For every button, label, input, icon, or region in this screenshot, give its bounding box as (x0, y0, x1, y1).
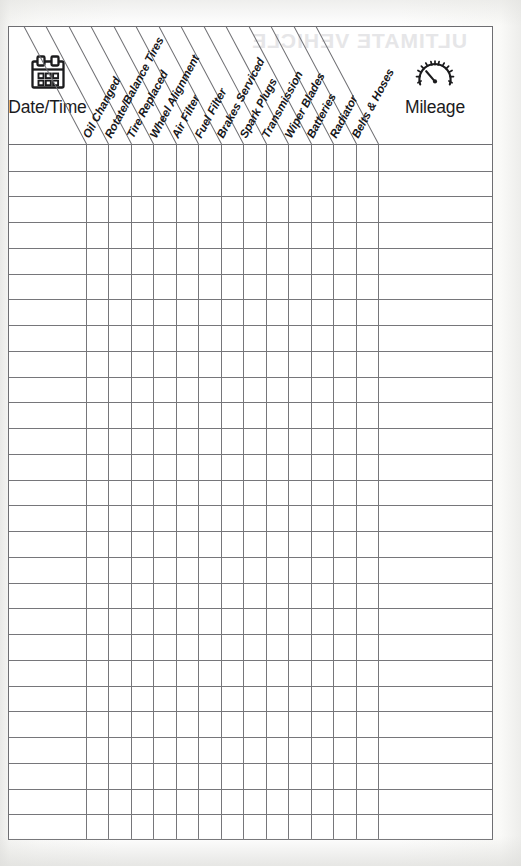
service-check-cell[interactable] (333, 145, 355, 171)
service-check-cell[interactable] (266, 428, 288, 454)
service-check-cell[interactable] (131, 557, 153, 583)
service-check-cell[interactable] (311, 222, 333, 248)
service-check-cell[interactable] (176, 505, 198, 531)
date-time-cell[interactable] (9, 325, 86, 351)
service-check-cell[interactable] (333, 171, 355, 197)
service-check-cell[interactable] (311, 686, 333, 712)
date-time-cell[interactable] (9, 248, 86, 274)
service-check-cell[interactable] (288, 248, 310, 274)
service-check-cell[interactable] (333, 763, 355, 789)
service-check-cell[interactable] (221, 531, 243, 557)
service-check-cell[interactable] (131, 737, 153, 763)
service-check-cell[interactable] (221, 402, 243, 428)
service-check-cell[interactable] (198, 686, 220, 712)
service-check-cell[interactable] (333, 686, 355, 712)
service-check-cell[interactable] (266, 711, 288, 737)
service-check-cell[interactable] (86, 402, 108, 428)
service-check-cell[interactable] (198, 196, 220, 222)
service-check-cell[interactable] (153, 583, 175, 609)
service-check-cell[interactable] (333, 505, 355, 531)
mileage-cell[interactable] (378, 686, 492, 712)
service-check-cell[interactable] (221, 196, 243, 222)
service-check-cell[interactable] (356, 557, 378, 583)
service-check-cell[interactable] (243, 402, 265, 428)
service-check-cell[interactable] (243, 763, 265, 789)
service-check-cell[interactable] (333, 789, 355, 815)
service-check-cell[interactable] (288, 711, 310, 737)
service-check-cell[interactable] (108, 325, 130, 351)
service-check-cell[interactable] (198, 171, 220, 197)
mileage-cell[interactable] (378, 222, 492, 248)
service-check-cell[interactable] (176, 480, 198, 506)
service-check-cell[interactable] (311, 428, 333, 454)
service-check-cell[interactable] (311, 454, 333, 480)
service-check-cell[interactable] (333, 737, 355, 763)
service-check-cell[interactable] (131, 531, 153, 557)
date-time-cell[interactable] (9, 737, 86, 763)
service-check-cell[interactable] (86, 583, 108, 609)
service-check-cell[interactable] (333, 557, 355, 583)
date-time-cell[interactable] (9, 583, 86, 609)
service-check-cell[interactable] (153, 660, 175, 686)
mileage-cell[interactable] (378, 145, 492, 171)
service-check-cell[interactable] (221, 171, 243, 197)
service-check-cell[interactable] (198, 634, 220, 660)
date-time-cell[interactable] (9, 480, 86, 506)
service-check-cell[interactable] (356, 248, 378, 274)
service-check-cell[interactable] (266, 274, 288, 300)
service-check-cell[interactable] (221, 557, 243, 583)
service-check-cell[interactable] (198, 763, 220, 789)
service-check-cell[interactable] (108, 763, 130, 789)
service-check-cell[interactable] (266, 789, 288, 815)
service-check-cell[interactable] (221, 454, 243, 480)
service-check-cell[interactable] (311, 402, 333, 428)
service-check-cell[interactable] (266, 299, 288, 325)
service-check-cell[interactable] (131, 505, 153, 531)
date-time-cell[interactable] (9, 377, 86, 403)
service-check-cell[interactable] (176, 763, 198, 789)
service-check-cell[interactable] (221, 428, 243, 454)
service-check-cell[interactable] (108, 428, 130, 454)
service-check-cell[interactable] (176, 248, 198, 274)
mileage-cell[interactable] (378, 608, 492, 634)
service-check-cell[interactable] (108, 737, 130, 763)
service-check-cell[interactable] (356, 763, 378, 789)
mileage-cell[interactable] (378, 737, 492, 763)
service-check-cell[interactable] (266, 454, 288, 480)
mileage-cell[interactable] (378, 531, 492, 557)
service-check-cell[interactable] (86, 737, 108, 763)
service-check-cell[interactable] (153, 377, 175, 403)
service-check-cell[interactable] (288, 505, 310, 531)
service-check-cell[interactable] (288, 325, 310, 351)
service-check-cell[interactable] (176, 660, 198, 686)
service-check-cell[interactable] (198, 299, 220, 325)
service-check-cell[interactable] (288, 763, 310, 789)
service-check-cell[interactable] (243, 686, 265, 712)
service-check-cell[interactable] (356, 737, 378, 763)
service-check-cell[interactable] (311, 196, 333, 222)
mileage-cell[interactable] (378, 325, 492, 351)
service-check-cell[interactable] (333, 480, 355, 506)
service-check-cell[interactable] (108, 583, 130, 609)
service-check-cell[interactable] (86, 248, 108, 274)
service-check-cell[interactable] (198, 274, 220, 300)
service-check-cell[interactable] (176, 557, 198, 583)
service-check-cell[interactable] (221, 299, 243, 325)
service-check-cell[interactable] (333, 196, 355, 222)
service-check-cell[interactable] (288, 351, 310, 377)
service-check-cell[interactable] (266, 351, 288, 377)
date-time-cell[interactable] (9, 299, 86, 325)
date-time-cell[interactable] (9, 763, 86, 789)
service-check-cell[interactable] (131, 145, 153, 171)
service-check-cell[interactable] (356, 634, 378, 660)
service-check-cell[interactable] (288, 634, 310, 660)
mileage-cell[interactable] (378, 814, 492, 840)
service-check-cell[interactable] (131, 428, 153, 454)
service-check-cell[interactable] (86, 789, 108, 815)
service-check-cell[interactable] (266, 583, 288, 609)
service-check-cell[interactable] (221, 686, 243, 712)
service-check-cell[interactable] (333, 814, 355, 840)
service-check-cell[interactable] (153, 505, 175, 531)
mileage-cell[interactable] (378, 583, 492, 609)
service-check-cell[interactable] (108, 351, 130, 377)
